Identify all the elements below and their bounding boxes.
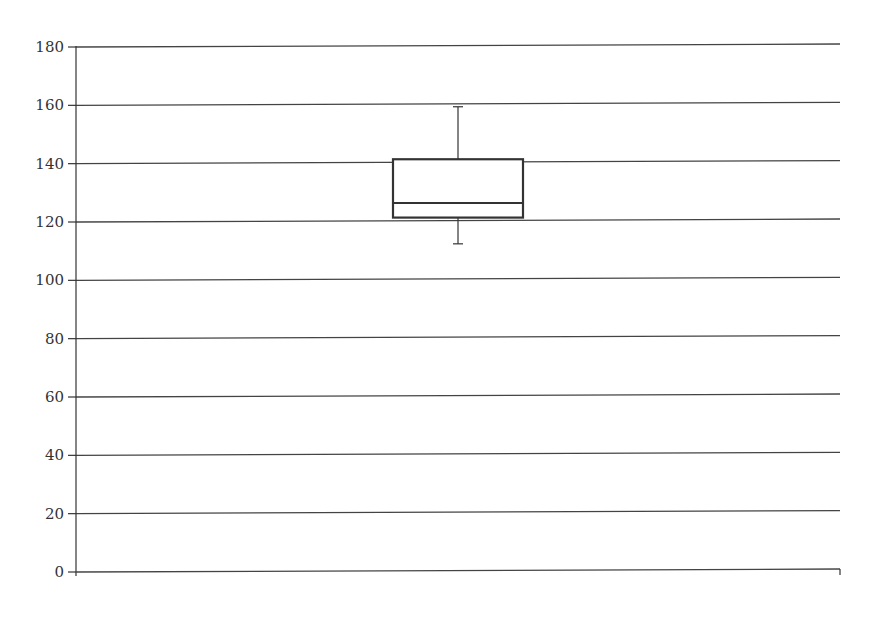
box-plot xyxy=(393,107,523,244)
y-tick-label: 60 xyxy=(45,388,64,406)
y-tick-label: 120 xyxy=(35,213,64,231)
gridline xyxy=(76,44,840,47)
gridline xyxy=(76,336,840,339)
gridline xyxy=(76,511,840,514)
y-tick-label: 40 xyxy=(45,446,64,464)
gridline xyxy=(76,569,840,572)
y-tick-label: 100 xyxy=(35,271,64,289)
y-axis: 020406080100120140160180 xyxy=(35,38,76,581)
y-tick-label: 140 xyxy=(35,155,64,173)
box-plot-chart: 020406080100120140160180 xyxy=(0,0,871,617)
interquartile-box xyxy=(393,159,523,217)
box-series xyxy=(393,107,523,244)
y-tick-label: 0 xyxy=(54,563,64,581)
gridline xyxy=(76,277,840,280)
gridline xyxy=(76,452,840,455)
gridline xyxy=(76,102,840,105)
y-tick-label: 20 xyxy=(45,505,64,523)
x-axis xyxy=(76,569,840,575)
y-tick-label: 80 xyxy=(45,330,64,348)
y-tick-label: 180 xyxy=(35,38,64,56)
gridline xyxy=(76,394,840,397)
y-tick-label: 160 xyxy=(35,96,64,114)
